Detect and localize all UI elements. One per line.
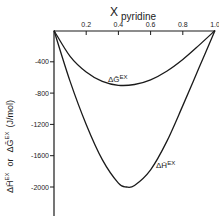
y-axis-ticks: -400-800-1200-1600-2000 — [31, 58, 54, 190]
x-axis-title: X pyridine — [110, 5, 156, 22]
x-tick-label: 0.6 — [146, 21, 156, 28]
y-label-unit: (J/mol) — [5, 100, 15, 128]
x-tick-label: 0.2 — [81, 21, 91, 28]
y-tick-label: -1200 — [31, 121, 49, 128]
h-ex-curve — [54, 31, 215, 188]
g-ex-curve — [54, 31, 215, 86]
x-tick-label: 0.4 — [114, 21, 124, 28]
g-ex-label: ΔḠEX — [108, 74, 128, 84]
y-tick-label: -2000 — [31, 184, 49, 191]
y-label-or: or — [5, 158, 15, 166]
y-tick-label: -1600 — [31, 152, 49, 159]
y-tick-label: -800 — [35, 90, 49, 97]
y-label-ex2: EX — [4, 131, 10, 139]
y-label-ex1: EX — [4, 172, 10, 180]
h-ex-label: ΔH̄EX — [156, 160, 175, 170]
y-label-h: ΔH̄ — [5, 180, 15, 193]
x-tick-label: 1.0 — [210, 21, 219, 28]
y-axis-title: ΔH̄EXorΔḠEX(J/mol) — [4, 100, 15, 193]
y-tick-label: -400 — [35, 58, 49, 65]
x-tick-label: 0.8 — [178, 21, 188, 28]
x-axis-label-main: X — [110, 5, 118, 19]
svg-text:ΔH̄EXorΔḠEX(J/mol): ΔH̄EXorΔḠEX(J/mol) — [4, 100, 15, 193]
x-axis-ticks: 0.20.40.60.81.0 — [81, 21, 219, 35]
y-label-g: ΔḠ — [5, 139, 15, 152]
chart: X pyridine 0.20.40.60.81.0 -400-800-1200… — [0, 0, 219, 216]
